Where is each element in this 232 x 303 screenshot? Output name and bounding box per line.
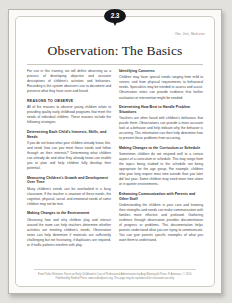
section-paragraph: Observing how and why children play and … bbox=[27, 218, 111, 248]
handout-content-card: 2.3 Obs. Unit, Mod user Observation: The… bbox=[15, 16, 215, 287]
page-title: Observation: The Basics bbox=[28, 43, 202, 59]
footer-citation: From Public Relations: Focus on Early Ch… bbox=[28, 273, 202, 281]
title-divider bbox=[27, 64, 203, 65]
section-paragraph: All of the reasons to observe young chil… bbox=[27, 105, 111, 125]
section-paragraph: Teachers are often faced with children's… bbox=[119, 116, 203, 141]
right-column: Identifying Concerns Children may have s… bbox=[119, 69, 203, 264]
section-heading-handling-problem-situations: Determining How Best to Handle Problem S… bbox=[119, 105, 203, 114]
footer-divider bbox=[34, 269, 196, 270]
section-heading-reasons-to-observe: REASONS TO OBSERVE bbox=[27, 99, 111, 104]
section-paragraph: Understanding the children in your care … bbox=[119, 203, 203, 244]
section-heading-determining-interests-skills-needs: Determining Each Child's Interests, Skil… bbox=[27, 130, 111, 139]
section-heading-enhancing-communication: Enhancing Communication with Parents and… bbox=[119, 192, 203, 201]
footer-citation-line-2: Published by Redleaf Press, www.redleafp… bbox=[28, 277, 202, 281]
section-number-badge: 2.3 bbox=[104, 9, 126, 23]
section-badge-container: 2.3 bbox=[16, 9, 214, 27]
corner-label: Obs. Unit, Mod user bbox=[175, 32, 205, 36]
page-sheet: 2.3 Obs. Unit, Mod user Observation: The… bbox=[8, 9, 222, 294]
section-paragraph: Many children's needs can be overlooked … bbox=[27, 187, 111, 207]
section-paragraph: Children may have special needs ranging … bbox=[119, 75, 203, 100]
intro-paragraph: For use in this training, we will define… bbox=[27, 69, 111, 94]
section-paragraph: If you do not know what your children al… bbox=[27, 141, 111, 171]
section-heading-changes-curriculum-schedule: Making Changes to the Curriculum or Sche… bbox=[119, 146, 203, 151]
body-columns: For use in this training, we will define… bbox=[27, 69, 203, 264]
left-column: For use in this training, we will define… bbox=[27, 69, 111, 264]
section-paragraph: Sometimes children do not respond well t… bbox=[119, 152, 203, 188]
section-heading-making-changes-environment: Making Changes to the Environment bbox=[27, 211, 111, 216]
scanned-page-background: 2.3 Obs. Unit, Mod user Observation: The… bbox=[0, 0, 232, 303]
section-heading-measuring-growth-development: Measuring Children's Growth and Developm… bbox=[27, 176, 111, 185]
section-heading-identifying-concerns: Identifying Concerns bbox=[119, 69, 203, 74]
